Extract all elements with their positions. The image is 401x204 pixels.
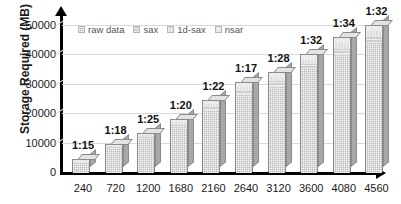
bar-face [365,25,383,172]
legend-item-sax[interactable]: sax [133,24,158,35]
bar-side-face [351,27,357,167]
bar-chart: Storage Required (MB) 500004000030000200… [0,0,401,204]
chart-legend: raw datasax1d-saxnsar [78,24,243,35]
y-tick-label: 0 [10,167,56,177]
bar-side-face [383,15,389,167]
bar-face [300,54,318,172]
bar-value-label: 1:22 [196,80,230,92]
legend-label: 1d-sax [177,24,206,35]
bar-side-face [318,44,324,167]
bar-value-label: 1:17 [229,62,263,74]
bar-segment-raw-data [269,86,285,173]
bar-column[interactable] [333,37,351,172]
bar-column[interactable] [105,144,123,172]
bar-column[interactable] [137,133,155,172]
bar-column[interactable] [170,119,188,172]
bar-face [105,144,123,172]
bar-segment-raw-data [236,94,252,173]
bar-segment-raw-data [366,43,382,173]
legend-label: sax [143,24,158,35]
bar-column[interactable] [72,159,90,172]
legend-label: raw data [88,24,124,35]
bar-face [137,133,155,172]
y-axis-arrow-icon [55,6,67,16]
bar-face [235,82,253,172]
y-axis-tick-labels: 50000400003000020000100000 [10,0,56,204]
bar-segment-raw-data [203,110,219,173]
legend-swatch-icon [215,26,222,33]
legend-item-raw-data[interactable]: raw data [78,24,124,35]
bar-face [268,72,286,172]
y-tick-label: 30000 [10,79,56,89]
bar-segment-raw-data [106,149,122,173]
bar-face [333,37,351,172]
legend-swatch-icon [167,26,174,33]
legend-label: nsar [225,24,243,35]
bar-segment-raw-data [73,162,89,173]
y-tick-label: 20000 [10,108,56,118]
bar-segment-raw-data [301,69,317,172]
bar-side-face [286,62,292,167]
x-tick-label: 4560 [356,182,396,194]
legend-item-nsar[interactable]: nsar [215,24,243,35]
bar-segment-raw-data [138,139,154,173]
bar-segment-raw-data [171,127,187,173]
bar-face [72,159,90,172]
bar-value-label: 1:32 [359,5,393,17]
y-tick-label: 40000 [10,49,56,59]
bar-column[interactable] [268,72,286,172]
bar-column[interactable] [202,100,220,172]
bar-segment-raw-data [334,54,350,172]
bar-side-face [220,90,226,167]
bar-value-label: 1:34 [327,17,361,29]
y-tick-label: 10000 [10,138,56,148]
bar-column[interactable] [235,82,253,172]
bar-value-label: 1:25 [131,113,165,125]
bar-value-label: 1:15 [66,139,100,151]
bar-value-label: 1:28 [262,52,296,64]
bar-face [170,119,188,172]
gridline [62,54,378,55]
legend-swatch-icon [78,26,85,33]
bar-face [202,100,220,172]
y-tick-label: 50000 [10,20,56,30]
bar-value-label: 1:20 [164,99,198,111]
bar-side-face [253,72,259,167]
bar-value-label: 1:18 [99,124,133,136]
legend-item-1d-sax[interactable]: 1d-sax [167,24,206,35]
bar-column[interactable] [300,54,318,172]
legend-swatch-icon [133,26,140,33]
bar-column[interactable] [365,25,383,172]
bar-value-label: 1:32 [294,34,328,46]
